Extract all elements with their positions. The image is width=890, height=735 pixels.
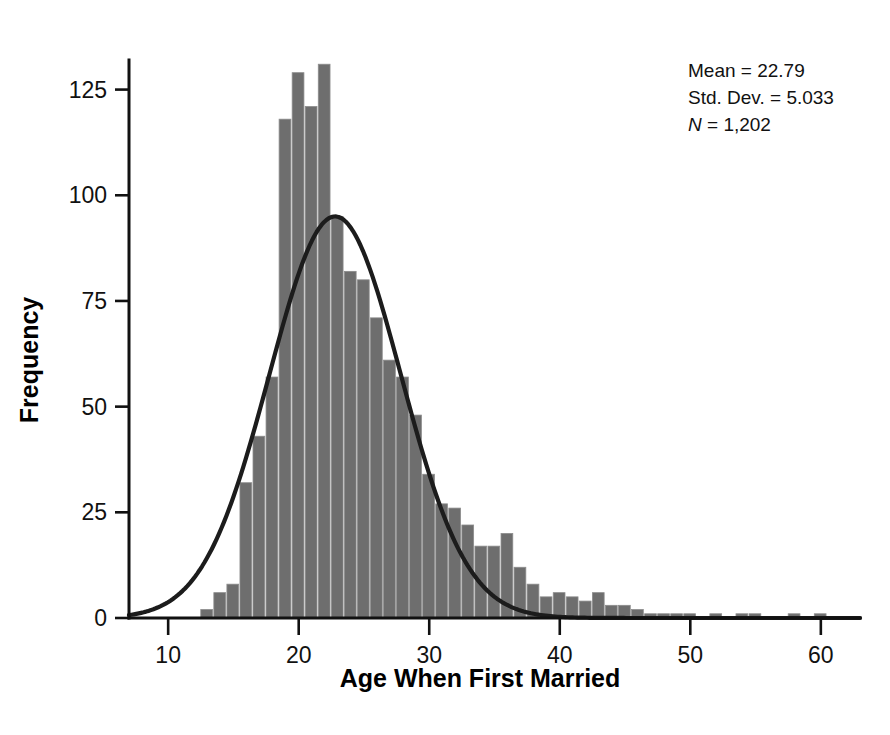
histogram-bar: [305, 107, 317, 619]
histogram-bars: [201, 64, 826, 618]
histogram-bar: [227, 584, 239, 618]
histogram-bar: [592, 593, 604, 618]
y-axis-ticks: 0255075100125: [69, 77, 129, 631]
histogram-bar: [423, 474, 435, 618]
y-tick-label: 25: [81, 499, 107, 525]
y-tick-label: 125: [69, 77, 107, 103]
histogram-bar: [266, 377, 278, 618]
stat-n-symbol: N: [688, 114, 702, 135]
y-axis-title: Frequency: [15, 297, 43, 424]
y-tick-label: 75: [81, 288, 107, 314]
histogram-bar: [488, 546, 500, 618]
histogram-bar: [344, 271, 356, 618]
histogram-bar: [318, 64, 330, 618]
histogram-bar: [384, 360, 396, 618]
stat-mean: Mean = 22.79: [688, 60, 805, 81]
histogram-chart: 0255075100125 102030405060 Age When Firs…: [0, 0, 890, 735]
y-tick-label: 100: [69, 182, 107, 208]
x-tick-label: 20: [286, 642, 312, 668]
y-tick-label: 50: [81, 394, 107, 420]
x-tick-label: 10: [155, 642, 181, 668]
x-tick-label: 50: [678, 642, 704, 668]
histogram-bar: [579, 601, 591, 618]
histogram-bar: [370, 318, 382, 618]
histogram-bar: [566, 597, 578, 618]
histogram-bar: [397, 377, 409, 618]
histogram-bar: [240, 483, 252, 618]
x-axis-title: Age When First Married: [340, 664, 621, 692]
histogram-bar: [279, 119, 291, 618]
histogram-bar: [331, 216, 343, 618]
stat-n: N = 1,202: [688, 114, 771, 135]
histogram-bar: [449, 508, 461, 618]
stat-n-value: = 1,202: [702, 114, 771, 135]
histogram-bar: [357, 280, 369, 618]
histogram-bar: [214, 593, 226, 618]
stat-std-dev: Std. Dev. = 5.033: [688, 87, 834, 108]
x-axis-ticks: 102030405060: [155, 618, 833, 668]
chart-canvas: 0255075100125 102030405060 Age When Firs…: [0, 0, 890, 735]
y-tick-label: 0: [94, 605, 107, 631]
histogram-bar: [553, 593, 565, 618]
histogram-bar: [253, 436, 265, 618]
histogram-bar: [292, 73, 304, 618]
x-tick-label: 60: [808, 642, 834, 668]
